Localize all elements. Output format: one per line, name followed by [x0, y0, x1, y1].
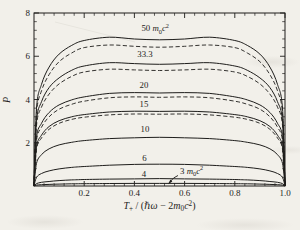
curve-33.3-dashed: [34, 69, 285, 186]
curve-labels: 50 m0c233.3201510643 m0c2: [137, 22, 203, 179]
x-tick-label: 0.4: [129, 188, 141, 198]
curve-label-15: 15: [140, 99, 149, 109]
curve-label-4: 4: [142, 169, 147, 179]
x-tick-label: 0.2: [79, 188, 90, 198]
curve-50-m0c2-dashed: [34, 45, 285, 186]
curve-4-solid: [34, 179, 285, 186]
curve-6-solid: [34, 164, 285, 186]
curves: [34, 37, 285, 186]
curve-20-dashed: [34, 97, 285, 186]
figure-scan-page: 86420.20.40.60.81.0 T+ / (ℏω − 2m0c2)P 5…: [0, 0, 300, 230]
curve-label-20: 20: [140, 80, 149, 90]
tick-labels: 86420.20.40.60.81.0: [26, 8, 292, 198]
curve-label-50-m0c2: 50 m0c2: [141, 22, 169, 35]
curve-label-6: 6: [142, 153, 147, 163]
curve-label-33.3: 33.3: [137, 49, 153, 59]
pair-production-probability-chart: 86420.20.40.60.81.0 T+ / (ℏω − 2m0c2)P 5…: [0, 0, 300, 230]
curve-15-solid: [34, 111, 285, 186]
y-tick-label: 6: [26, 51, 31, 61]
x-tick-label: 0.6: [179, 188, 191, 198]
y-axis-title: P: [1, 97, 12, 104]
y-tick-label: 8: [26, 8, 31, 18]
curve-20-solid: [34, 93, 285, 186]
curve-label-3-m0c2: 3 m0c2: [180, 164, 203, 177]
x-axis-title: T+ / (ℏω − 2m0c2): [123, 200, 195, 214]
annotation-arrow: [168, 176, 178, 185]
x-tick-label: 0.8: [229, 188, 241, 198]
y-tick-label: 2: [26, 138, 31, 148]
y-tick-label: 4: [26, 95, 31, 105]
curve-15-dashed: [34, 114, 285, 186]
x-tick-label: 1.0: [279, 188, 291, 198]
curve-label-10: 10: [141, 124, 150, 134]
